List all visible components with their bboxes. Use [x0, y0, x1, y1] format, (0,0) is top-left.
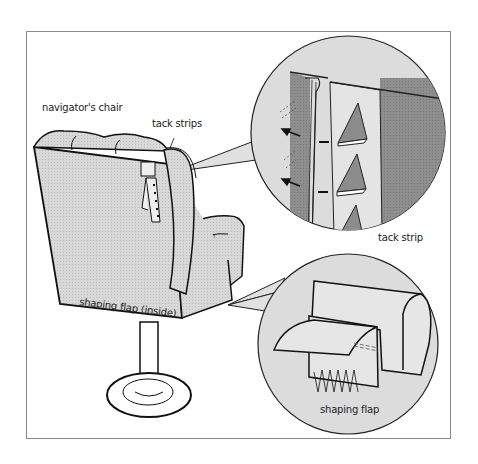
label-navigators-chair: navigator's chair — [42, 102, 122, 113]
label-tack-strips: tack strips — [152, 118, 202, 129]
chair-body — [34, 131, 232, 318]
label-tack-strip: tack strip — [378, 232, 423, 243]
chair-pedestal — [107, 322, 191, 417]
tack-strip-detail-lens — [251, 36, 460, 248]
label-shaping-flap: shaping flap — [320, 404, 379, 415]
